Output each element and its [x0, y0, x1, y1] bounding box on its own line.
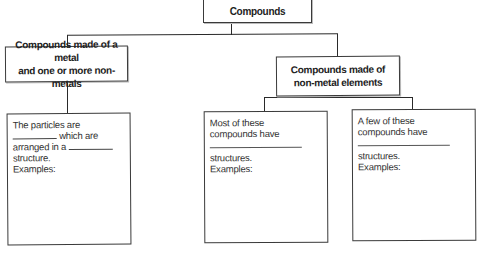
branch-label-line2: and one or more non-metals: [6, 64, 127, 91]
leaf-text-line1: The particles are: [13, 119, 125, 131]
root-node-label: Compounds: [230, 5, 286, 18]
leaf-text-examples: Examples:: [210, 163, 322, 175]
branch-label-line2: non-metal elements: [291, 76, 385, 90]
leaf-text-line2: which are: [13, 130, 125, 142]
fill-in-blank-particles[interactable]: [13, 130, 57, 139]
leaf-text-examples: Examples:: [13, 163, 125, 175]
leaf-text-line1: Most of these: [210, 117, 322, 129]
branch-label-line1: Compounds made of a metal: [6, 38, 127, 65]
fill-in-blank-structure[interactable]: [69, 141, 113, 150]
branch-node-nonmetal-elements: Compounds made of non-metal elements: [276, 56, 400, 97]
connector-right-sub-horizontal: [264, 97, 412, 98]
leaf-text-line1: A few of these: [358, 115, 470, 127]
connector-sub-left-down: [264, 97, 265, 111]
leaf-text-line2: compounds have: [210, 128, 322, 140]
branch-node-metal-nonmetal: Compounds made of a metal and one or mor…: [5, 46, 128, 83]
leaf-text-line4: structure.: [13, 152, 125, 164]
root-node-compounds: Compounds: [203, 0, 312, 23]
leaf-text-line3: structures.: [358, 150, 470, 162]
leaf-node-ionic: The particles are which are arranged in …: [7, 113, 132, 246]
connector-main-horizontal: [67, 33, 338, 35]
fill-in-blank-structure-type[interactable]: [210, 147, 302, 148]
leaf-text-line2: compounds have: [358, 126, 470, 138]
leaf-text-line3: arranged in a: [13, 141, 125, 153]
connector-sub-right-down: [412, 97, 413, 109]
leaf-node-most-covalent: Most of these compounds have structures.…: [204, 111, 329, 244]
leaf-text-line3: structures.: [210, 152, 322, 164]
connector-right-branch-up: [337, 34, 338, 56]
leaf-node-few-covalent: A few of these compounds have structures…: [352, 109, 477, 242]
branch-label-line1: Compounds made of: [291, 63, 385, 77]
leaf-text-examples: Examples:: [358, 161, 470, 173]
fill-in-blank-structure-type[interactable]: [358, 145, 450, 146]
